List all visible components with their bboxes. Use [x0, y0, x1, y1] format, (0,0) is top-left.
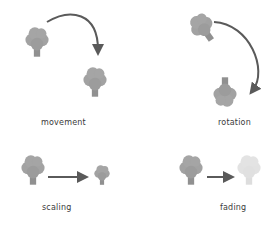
arrow-icon [214, 22, 258, 90]
tree-icon [213, 77, 236, 106]
rotation-panel [185, 9, 258, 106]
tree-icon [94, 165, 109, 185]
tree-icon [185, 9, 221, 46]
tree-icon [21, 155, 44, 184]
transformation-diagram [0, 0, 277, 226]
scaling-label: scaling [42, 203, 71, 212]
fading-panel [179, 155, 260, 184]
tree-icon [179, 155, 202, 184]
movement-label: movement [41, 118, 86, 127]
tree-icon [25, 27, 48, 56]
tree-icon-faded [237, 155, 260, 184]
fading-label: fading [220, 203, 246, 212]
scaling-panel [21, 155, 109, 185]
rotation-label: rotation [218, 118, 251, 127]
arrow-icon [47, 15, 98, 50]
tree-icon [83, 67, 106, 96]
movement-panel [25, 15, 106, 97]
